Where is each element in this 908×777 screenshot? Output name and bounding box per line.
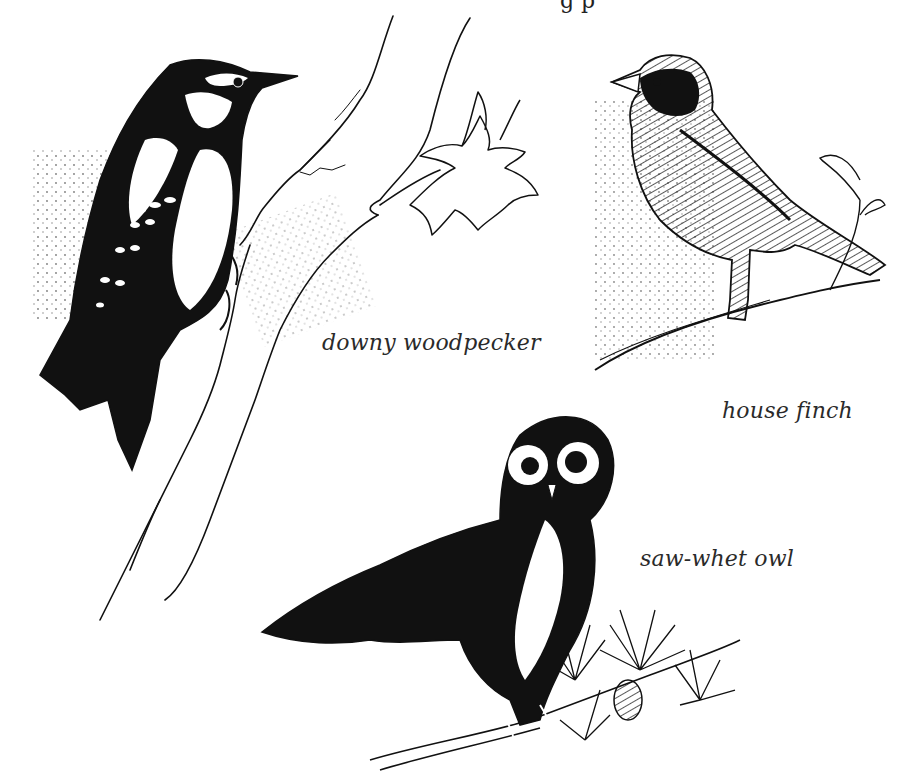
saw-whet-owl-drawing [262,417,740,770]
ink-drawing [0,0,908,777]
house-finch-drawing [595,55,885,370]
bird-illustration-plate: g p [0,0,908,777]
caption-downy-woodpecker: downy woodpecker [322,330,541,355]
caption-saw-whet-owl: saw-whet owl [640,546,794,571]
caption-house-finch: house finch [722,398,853,423]
maple-leaf-drawing [410,92,538,235]
